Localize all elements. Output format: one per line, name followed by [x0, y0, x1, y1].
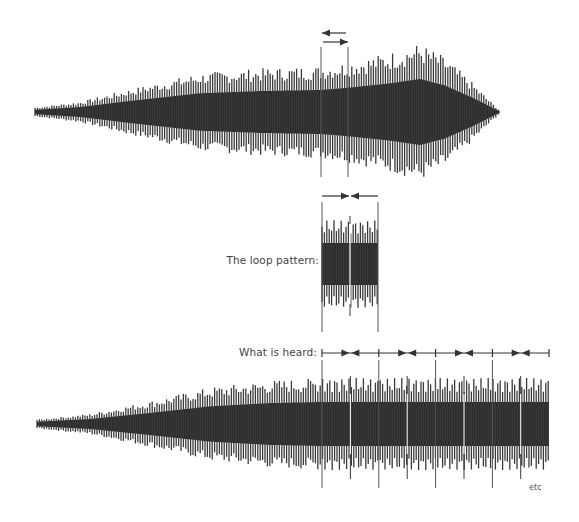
original-waveform [35, 46, 500, 177]
loop-pattern-label: The loop pattern: [227, 254, 319, 266]
heard-waveform [37, 378, 549, 470]
etc-label: etc [529, 483, 542, 492]
what-is-heard-label: What is heard: [239, 346, 317, 358]
